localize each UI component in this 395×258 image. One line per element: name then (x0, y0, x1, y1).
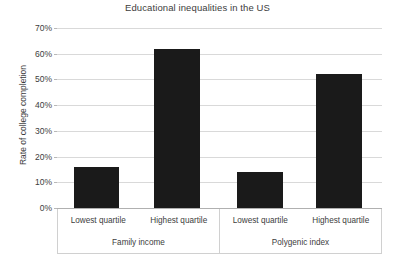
category-label-family-highest: Highest quartile (139, 209, 221, 232)
y-tick-label-70: 70% (12, 23, 52, 33)
y-tick-label-20: 20% (12, 152, 52, 162)
gridline-70 (57, 28, 382, 29)
tick-70 (54, 28, 57, 29)
tick-60 (54, 54, 57, 55)
tick-40 (54, 105, 57, 106)
category-label-polygenic-highest: Highest quartile (301, 209, 382, 232)
category-label-family-lowest: Lowest quartile (58, 209, 139, 232)
y-tick-label-30: 30% (12, 126, 52, 136)
tick-20 (54, 157, 57, 158)
plot-area: 70% 60% 50% 40% 30% 20% 10% 0% (57, 28, 382, 208)
bar-chart: Educational inequalities in the US Rate … (0, 0, 395, 258)
chart-title: Educational inequalities in the US (0, 2, 395, 13)
category-label-polygenic-lowest: Lowest quartile (220, 209, 301, 232)
bar-polygenic-index-lowest (237, 172, 283, 208)
group-label-polygenic-index: Polygenic index (220, 232, 381, 253)
tick-50 (54, 79, 57, 80)
y-tick-label-50: 50% (12, 74, 52, 84)
bar-family-income-highest (154, 49, 200, 208)
y-tick-label-0: 0% (12, 203, 52, 213)
y-axis-title: Rate of college completion (18, 35, 28, 195)
bar-family-income-lowest (74, 167, 119, 208)
group-label-row: Family income Polygenic index (58, 232, 381, 253)
category-axis-table: Lowest quartile Highest quartile Lowest … (57, 209, 382, 254)
bar-polygenic-index-highest (316, 74, 362, 208)
tick-10 (54, 182, 57, 183)
y-tick-label-40: 40% (12, 100, 52, 110)
group-label-family-income: Family income (58, 232, 220, 253)
y-tick-label-10: 10% (12, 177, 52, 187)
tick-30 (54, 131, 57, 132)
y-tick-label-60: 60% (12, 49, 52, 59)
quartile-label-row: Lowest quartile Highest quartile Lowest … (58, 209, 381, 232)
gridline-60 (57, 54, 382, 55)
